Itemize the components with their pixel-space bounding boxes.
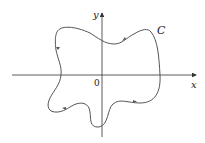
- curve-arrow-bottom-left: [62, 107, 66, 110]
- y-axis-label: y: [92, 9, 99, 20]
- origin-label: 0: [94, 78, 100, 88]
- line-integral-diagram: y x 0 C: [0, 0, 205, 143]
- curve-label: C: [157, 24, 166, 37]
- x-axis-label: x: [191, 79, 197, 90]
- curve-c: [48, 27, 160, 127]
- curve-arrow-left: [56, 47, 60, 50]
